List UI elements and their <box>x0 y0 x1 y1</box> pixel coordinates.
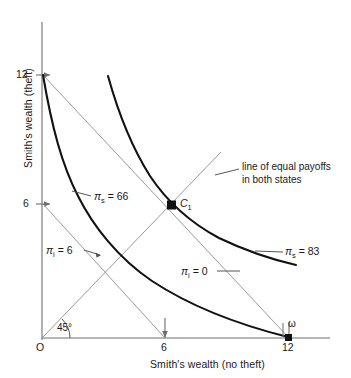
x-tick-6-arrow <box>162 331 168 338</box>
point-omega-label: ω <box>288 317 296 330</box>
figure-canvas: Smith's wealth (theft) Smith's wealth (n… <box>0 0 351 378</box>
pi-s-83-value: = 83 <box>299 245 320 257</box>
pi-i-6-label: πi = 6 <box>46 244 73 261</box>
pi-symbol: π <box>285 245 292 257</box>
pi-i-6-arrowhead <box>96 253 102 258</box>
pi-s-83-leader <box>255 251 283 252</box>
equal-payoffs-note-line2: in both states <box>242 173 331 186</box>
pi-s-66-label: πs = 66 <box>94 190 128 207</box>
c1-letter: C <box>180 197 188 209</box>
x-tick-label-12: 12 <box>282 341 294 353</box>
pi-s-66-leader <box>72 191 91 196</box>
pi-symbol: π <box>181 265 188 277</box>
pi-subscript-i: i <box>53 250 55 259</box>
pi-symbol: π <box>94 190 101 202</box>
x-tick-label-6: 6 <box>161 341 167 353</box>
c1-subscript: 1 <box>188 203 192 212</box>
x-tick-label-origin: O <box>36 341 44 353</box>
pi-s-83-label: πs = 83 <box>285 245 319 262</box>
pi-subscript-s: s <box>292 251 296 260</box>
y-tick-label-6: 6 <box>23 197 29 209</box>
pi-subscript-s: s <box>101 196 105 205</box>
equal-payoffs-note-leader <box>215 169 239 175</box>
chart-svg <box>0 0 351 378</box>
point-c1-marker[interactable] <box>167 201 176 210</box>
point-c1-label: C1 <box>180 197 192 214</box>
pi-symbol: π <box>46 244 53 256</box>
angle-45-label: 45° <box>57 321 72 334</box>
pi-i-0-value: = 0 <box>193 265 208 277</box>
pi-i-0-label: πi = 0 <box>181 265 208 282</box>
pi-i-6-value: = 6 <box>58 244 73 256</box>
pi-s-66-value: = 66 <box>108 190 129 202</box>
point-omega-marker[interactable] <box>285 334 292 341</box>
equal-payoffs-note: line of equal payoffs in both states <box>242 160 331 186</box>
equal-payoffs-note-line1: line of equal payoffs <box>242 160 331 173</box>
x-axis-label: Smith's wealth (no theft) <box>150 358 265 370</box>
y-tick-label-12: 12 <box>16 68 28 80</box>
pi-subscript-i: i <box>188 271 190 280</box>
